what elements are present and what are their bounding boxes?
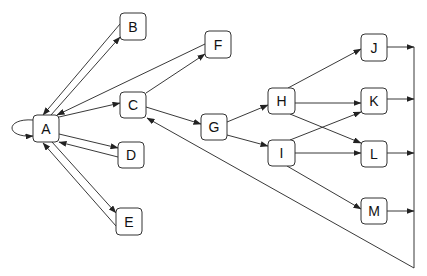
edge-G-I	[227, 135, 268, 146]
node-D: D	[118, 142, 144, 168]
node-label: C	[128, 97, 138, 113]
node-I: I	[268, 140, 295, 166]
node-M: M	[361, 198, 387, 224]
node-label: G	[209, 119, 220, 135]
edge-A-B	[51, 37, 120, 115]
node-label: I	[280, 145, 284, 161]
node-label: J	[371, 40, 378, 56]
edge-A-D	[59, 134, 118, 148]
node-label: M	[368, 203, 380, 219]
node-G: G	[201, 114, 227, 140]
node-label: K	[369, 93, 379, 109]
edge-H-J	[288, 49, 361, 88]
node-label: E	[124, 214, 133, 230]
node-K: K	[361, 88, 387, 114]
edge-B-A	[43, 24, 120, 115]
edge-C-F	[146, 54, 205, 93]
node-C: C	[120, 92, 146, 118]
node-label: A	[41, 121, 51, 137]
graph-diagram: A B C D E F G H I J K L M	[0, 0, 427, 276]
edge-E-A	[43, 143, 116, 226]
node-B: B	[120, 13, 146, 40]
edge-I-K	[290, 112, 361, 140]
node-J: J	[361, 34, 387, 61]
node-label: B	[128, 19, 137, 35]
edge-A-E	[52, 142, 116, 213]
nodes: A B C D E F G H I J K L M	[33, 13, 387, 235]
node-label: F	[214, 37, 223, 53]
node-E: E	[116, 208, 142, 235]
node-H: H	[268, 88, 295, 114]
node-label: L	[370, 146, 378, 162]
node-label: H	[276, 93, 286, 109]
edge-C-G	[146, 107, 201, 124]
node-label: D	[126, 147, 136, 163]
edge-H-L	[290, 114, 361, 143]
edge-G-H	[227, 105, 268, 122]
node-L: L	[361, 141, 387, 167]
edge-D-A	[59, 142, 118, 157]
node-F: F	[205, 31, 231, 58]
node-A: A	[33, 115, 59, 142]
edges	[12, 24, 414, 268]
edge-A-A	[12, 120, 33, 136]
